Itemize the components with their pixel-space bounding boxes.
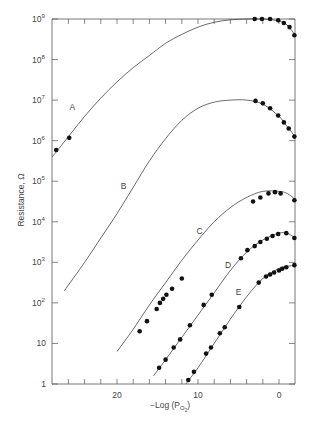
curves: [52, 19, 295, 384]
point-d: [157, 365, 162, 370]
point-e: [209, 345, 214, 350]
point-c: [278, 191, 283, 196]
point-a: [67, 136, 72, 141]
y-tick-label: 109: [32, 13, 45, 24]
point-c: [158, 301, 163, 306]
curve-d: [153, 232, 295, 375]
curve-a: [52, 19, 295, 157]
point-c: [164, 292, 169, 297]
point-a: [276, 18, 281, 23]
point-c: [251, 199, 256, 204]
point-e: [268, 272, 273, 277]
point-b: [282, 120, 287, 125]
curve-labels: ABCDE: [70, 102, 242, 297]
point-c: [137, 329, 142, 334]
curve-label-e: E: [236, 287, 242, 297]
curve-c: [117, 191, 295, 352]
data-points: [54, 17, 297, 383]
point-c: [170, 286, 175, 291]
y-tick-label: 103: [32, 256, 45, 267]
point-d: [292, 236, 297, 241]
point-a: [268, 17, 273, 22]
point-b: [292, 134, 297, 139]
curve-label-b: B: [121, 181, 127, 191]
point-b: [261, 101, 266, 106]
point-a: [260, 17, 265, 22]
y-tick-label: 1: [41, 379, 46, 389]
point-c: [154, 307, 159, 312]
point-d: [171, 345, 176, 350]
curve-label-a: A: [70, 102, 76, 112]
point-e: [292, 263, 297, 268]
point-c: [161, 297, 166, 302]
point-c: [292, 198, 297, 203]
y-tick-label: 10: [37, 338, 47, 348]
curve-label-d: D: [225, 260, 231, 270]
y-tick-label: 102: [32, 297, 45, 308]
y-tick-label: 105: [32, 175, 45, 186]
point-d: [201, 303, 206, 308]
point-e: [192, 370, 197, 375]
point-e: [204, 351, 209, 356]
point-d: [178, 337, 183, 342]
point-e: [256, 280, 261, 285]
point-d: [258, 240, 263, 245]
point-b: [268, 106, 273, 111]
point-e: [218, 331, 223, 336]
y-tick-label: 106: [32, 135, 45, 146]
point-d: [270, 234, 275, 239]
point-e: [280, 267, 285, 272]
point-e: [284, 265, 289, 270]
point-a: [292, 33, 297, 38]
point-a: [252, 17, 257, 22]
point-a: [54, 148, 59, 153]
point-d: [188, 323, 193, 328]
curve-label-c: C: [197, 226, 203, 236]
point-e: [237, 305, 242, 310]
point-d: [252, 244, 257, 249]
x-tick-label: 0: [277, 390, 282, 400]
point-e: [264, 274, 269, 279]
point-d: [209, 292, 214, 297]
point-c: [145, 319, 150, 324]
point-d: [239, 256, 244, 261]
point-e: [222, 325, 227, 330]
point-e: [272, 270, 277, 275]
point-d: [163, 357, 168, 362]
point-d: [245, 248, 250, 253]
point-d: [265, 237, 270, 242]
point-b: [286, 126, 291, 131]
x-tick-label: 20: [112, 390, 122, 400]
point-c: [180, 276, 185, 281]
y-axis-title: Resistance, Ω: [16, 173, 26, 226]
point-e: [186, 378, 191, 383]
point-a: [282, 21, 287, 26]
y-tick-label: 108: [32, 54, 45, 65]
point-c: [273, 190, 278, 195]
x-axis-title: −Log (PO2): [150, 400, 190, 413]
y-tick-label: 107: [32, 94, 45, 105]
point-b: [276, 113, 281, 118]
point-a: [287, 25, 292, 30]
curve-e: [186, 265, 295, 384]
y-tick-label: 104: [32, 216, 45, 227]
resistance-chart: 20100110102103104105106107108109 ABCDE R…: [0, 0, 313, 430]
point-c: [258, 195, 263, 200]
point-c: [266, 191, 271, 196]
point-b: [253, 99, 258, 104]
point-d: [276, 232, 281, 237]
axes: 20100110102103104105106107108109: [32, 13, 295, 400]
point-d: [284, 231, 289, 236]
x-tick-label: 10: [193, 390, 203, 400]
